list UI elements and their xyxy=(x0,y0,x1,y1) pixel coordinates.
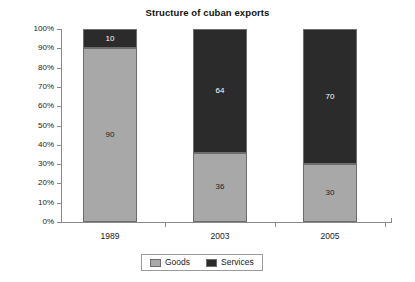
x-axis-label: 2005 xyxy=(290,231,370,241)
x-axis-line xyxy=(61,222,392,223)
bar-segment-goods[interactable]: 90 xyxy=(83,48,137,222)
y-axis-tick xyxy=(57,145,62,146)
bar-segment-goods[interactable]: 36 xyxy=(193,153,247,222)
y-axis-label: 30% xyxy=(10,160,54,168)
y-axis-tick xyxy=(57,106,62,107)
y-axis-tick xyxy=(57,203,62,204)
bar-value-label: 36 xyxy=(216,183,225,191)
bar-value-label: 90 xyxy=(106,131,115,139)
chart-legend: Goods Services xyxy=(141,254,263,271)
x-axis-tick xyxy=(385,222,386,227)
y-axis-tick xyxy=(57,87,62,88)
y-axis-label: 0% xyxy=(10,218,54,226)
bar-segment-services[interactable]: 10 xyxy=(83,29,137,48)
y-axis-tick xyxy=(57,48,62,49)
y-axis-tick xyxy=(57,126,62,127)
bar-stack[interactable]: 1090 xyxy=(83,29,137,222)
chart-title: Structure of cuban exports xyxy=(0,7,415,18)
y-axis-label: 10% xyxy=(10,199,54,207)
x-axis-tick xyxy=(275,222,276,227)
bar-value-label: 30 xyxy=(326,189,335,197)
legend-label-goods: Goods xyxy=(165,258,190,267)
x-axis-label: 1989 xyxy=(70,231,150,241)
bar-stack[interactable]: 7030 xyxy=(303,29,357,222)
bar-value-label: 10 xyxy=(106,35,115,43)
legend-swatch-services-icon xyxy=(206,259,217,267)
bar-value-label: 64 xyxy=(216,87,225,95)
x-axis-tick xyxy=(165,222,166,227)
y-axis-label: 50% xyxy=(10,122,54,130)
x-axis-label: 2003 xyxy=(180,231,260,241)
bar-segment-services[interactable]: 64 xyxy=(193,29,247,153)
y-axis-tick xyxy=(57,29,62,30)
y-axis-tick xyxy=(57,222,62,223)
y-axis-tick xyxy=(57,183,62,184)
y-axis-label: 40% xyxy=(10,141,54,149)
x-axis-right-cap xyxy=(391,218,392,223)
bar-stack[interactable]: 6436 xyxy=(193,29,247,222)
y-axis-tick xyxy=(57,164,62,165)
legend-entry-goods[interactable]: Goods xyxy=(150,258,190,267)
legend-entry-services[interactable]: Services xyxy=(206,258,254,267)
y-axis-tick xyxy=(57,68,62,69)
bar-segment-services[interactable]: 70 xyxy=(303,29,357,164)
y-axis-label: 60% xyxy=(10,102,54,110)
y-axis-label: 80% xyxy=(10,64,54,72)
legend-swatch-goods-icon xyxy=(150,259,161,267)
legend-label-services: Services xyxy=(221,258,254,267)
bar-segment-goods[interactable]: 30 xyxy=(303,164,357,222)
y-axis-label: 90% xyxy=(10,44,54,52)
bar-value-label: 70 xyxy=(326,93,335,101)
y-axis-label: 70% xyxy=(10,83,54,91)
chart-container: Structure of cuban exports 100%90%80%70%… xyxy=(0,0,415,282)
y-axis-label: 100% xyxy=(10,25,54,33)
y-axis-label: 20% xyxy=(10,179,54,187)
